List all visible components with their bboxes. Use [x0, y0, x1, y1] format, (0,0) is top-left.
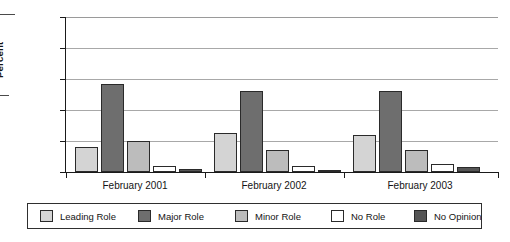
legend-swatch-icon — [138, 210, 151, 222]
bar — [431, 164, 454, 172]
bar — [292, 166, 315, 172]
legend-swatch-icon — [414, 210, 427, 222]
y-axis-tick — [60, 79, 65, 80]
bar — [75, 147, 98, 172]
legend-item[interactable]: No Role — [331, 209, 385, 223]
x-axis-tick — [344, 173, 345, 178]
y-axis-tick — [60, 141, 65, 142]
bar — [405, 150, 428, 172]
y-axis-title: Percent — [0, 42, 5, 78]
bar — [379, 91, 402, 172]
x-axis-group-label: February 2003 — [375, 180, 465, 191]
bar — [457, 167, 480, 172]
x-axis-group-label: February 2002 — [229, 180, 319, 191]
page-edge-mark-top — [0, 14, 15, 15]
x-axis-line — [65, 172, 499, 173]
bar — [127, 141, 150, 172]
y-axis-tick — [60, 17, 65, 18]
bar — [353, 135, 376, 172]
legend-swatch-icon — [235, 210, 248, 222]
x-axis-tick — [66, 173, 67, 178]
gridline — [66, 110, 498, 111]
bar — [318, 170, 341, 172]
bar — [153, 166, 176, 172]
plot-area — [66, 17, 498, 172]
legend-item[interactable]: No Opinion — [414, 209, 482, 223]
plot-top-border — [66, 17, 498, 18]
bar — [266, 150, 289, 172]
legend-item[interactable]: Minor Role — [235, 209, 301, 223]
gridline — [66, 48, 498, 49]
legend-swatch-icon — [40, 210, 53, 222]
legend-label: Major Role — [158, 211, 204, 222]
legend-item[interactable]: Leading Role — [40, 209, 116, 223]
legend-label: Minor Role — [255, 211, 301, 222]
legend-label: No Opinion — [434, 211, 482, 222]
bar — [214, 133, 237, 172]
y-axis-tick — [60, 172, 65, 173]
x-axis-tick — [205, 173, 206, 178]
chart-legend: Leading RoleMajor RoleMinor RoleNo RoleN… — [27, 203, 482, 229]
y-axis-tick — [60, 110, 65, 111]
legend-label: No Role — [351, 211, 385, 222]
bar-chart-figure: Percent 020406080100 February 2001Februa… — [0, 0, 510, 242]
legend-label: Leading Role — [60, 211, 116, 222]
bar — [179, 169, 202, 172]
gridline — [66, 79, 498, 80]
y-axis-tick — [60, 48, 65, 49]
bar — [240, 91, 263, 172]
bar — [101, 84, 124, 172]
x-axis-tick — [498, 173, 499, 178]
legend-swatch-icon — [331, 210, 344, 222]
page-edge-mark-middle — [0, 95, 9, 96]
x-axis-group-label: February 2001 — [90, 180, 180, 191]
legend-item[interactable]: Major Role — [138, 209, 204, 223]
